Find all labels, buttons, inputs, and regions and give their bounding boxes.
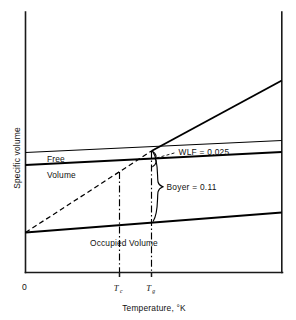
annotation-boyer: Boyer = 0.11 <box>167 182 217 192</box>
chart-figure: T c T g 0 Temperature, °K Specific volum… <box>0 0 296 320</box>
annotation-volume: Volume <box>47 170 76 180</box>
annotation-occupied-volume: Occupied Volume <box>90 238 158 248</box>
annotation-wlf: WLF = 0.025 <box>179 147 230 157</box>
y-axis-title: Specific volume <box>12 127 22 189</box>
origin-label: 0 <box>22 282 27 292</box>
tick-label-tg-subscript: g <box>152 288 155 294</box>
specific-volume-temperature-chart: T c T g 0 Temperature, °K Specific volum… <box>0 0 296 320</box>
annotation-free: Free <box>47 154 65 164</box>
tick-label-tc-subscript: c <box>120 288 123 294</box>
x-axis-title: Temperature, °K <box>122 303 186 313</box>
